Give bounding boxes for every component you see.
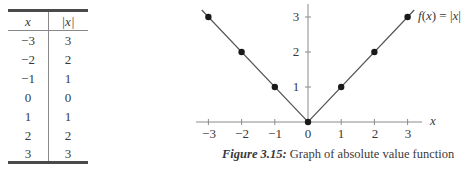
data-point [305, 119, 311, 125]
caption-figure-number: Figure 3.15: [222, 147, 287, 161]
caption-text: Graph of absolute value function [290, 147, 455, 161]
data-point [205, 14, 211, 20]
x-tick-label: −1 [265, 127, 285, 141]
y-tick-label: 3 [286, 10, 306, 24]
x-tick-label: 3 [398, 127, 418, 141]
fn-label-close: ) = | [432, 8, 453, 23]
y-tick-label: 2 [286, 45, 306, 59]
plot-area [0, 0, 472, 169]
data-point [404, 14, 410, 20]
absolute-value-chart: −3 −2 −1 0 1 2 3 1 2 3 x f(x) = |x| Figu… [0, 0, 472, 169]
fn-label-end: | [458, 8, 461, 23]
x-tick-label: −3 [199, 127, 219, 141]
x-tick-label: 1 [331, 127, 351, 141]
data-point [238, 49, 244, 55]
x-tick-label: 0 [298, 127, 318, 141]
figure-caption: Figure 3.15: Graph of absolute value fun… [222, 147, 454, 161]
function-label: f(x) = |x| [418, 9, 461, 23]
data-point [338, 84, 344, 90]
x-axis-label: x [430, 114, 436, 128]
y-tick-label: 1 [286, 80, 306, 94]
x-tick-label: −2 [232, 127, 252, 141]
data-point [371, 49, 377, 55]
data-point [272, 84, 278, 90]
x-tick-label: 2 [365, 127, 385, 141]
